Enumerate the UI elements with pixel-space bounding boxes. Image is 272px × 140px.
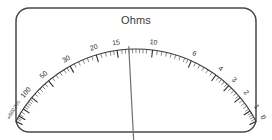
meter-title: Ohms [0, 14, 272, 26]
scale-label-15: 15 [112, 38, 121, 46]
scale-label-10: 10 [149, 38, 158, 46]
scale-label-0: 0 [259, 114, 267, 121]
ohmmeter-face: ∞5002001005030201510643210 Ohms [0, 0, 272, 140]
